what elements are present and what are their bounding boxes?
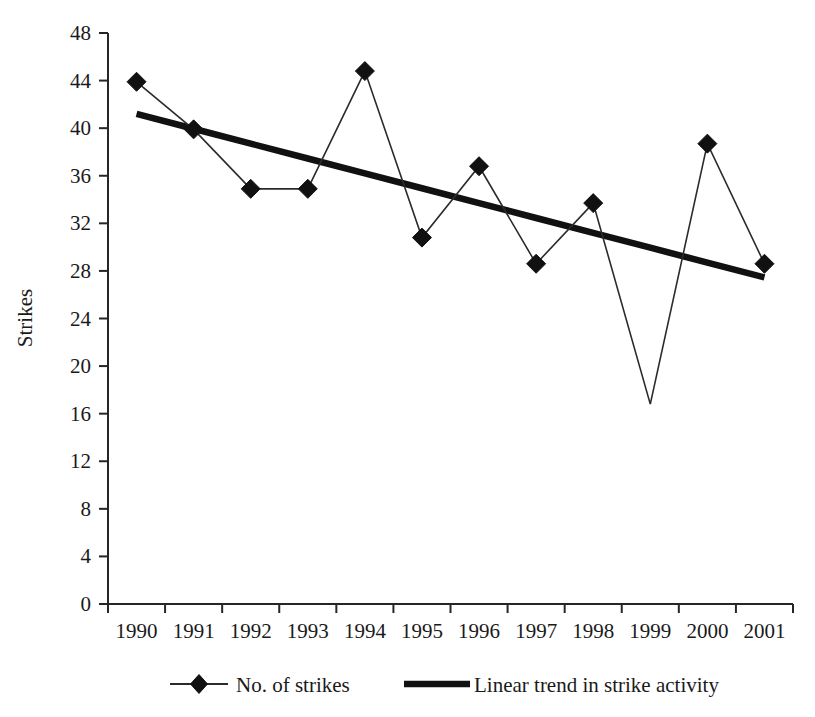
- x-tick-label: 2001: [743, 619, 785, 643]
- y-axis-title: Strikes: [13, 289, 37, 347]
- x-tick-label: 1995: [401, 619, 443, 643]
- y-axis-title-label: Strikes: [13, 289, 37, 347]
- y-tick-label: 20: [70, 354, 91, 378]
- legend-label-no-of-strikes: No. of strikes: [236, 673, 350, 697]
- x-tick-label: 1994: [344, 619, 387, 643]
- y-tick-label: 0: [81, 592, 92, 616]
- y-tick-label: 4: [81, 544, 92, 568]
- x-tick-label: 1999: [629, 619, 671, 643]
- x-tick-label: 1997: [515, 619, 557, 643]
- y-tick-label: 32: [70, 211, 91, 235]
- chart-background: [0, 0, 815, 717]
- y-tick-label: 16: [70, 402, 91, 426]
- y-tick-label: 40: [70, 116, 91, 140]
- y-tick-label: 36: [70, 164, 91, 188]
- y-tick-label: 24: [70, 307, 92, 331]
- strikes-line-chart: Strikes 04812162024283236404448 19901991…: [0, 0, 815, 717]
- y-tick-label: 12: [70, 449, 91, 473]
- x-tick-label: 1992: [230, 619, 272, 643]
- x-tick-label: 1993: [287, 619, 329, 643]
- x-tick-label: 1996: [458, 619, 500, 643]
- x-tick-label: 1990: [116, 619, 158, 643]
- y-tick-label: 48: [70, 21, 91, 45]
- legend-label-linear-trend: Linear trend in strike activity: [474, 673, 719, 697]
- y-tick-label: 28: [70, 259, 91, 283]
- y-tick-label: 8: [81, 497, 92, 521]
- chart-figure: Strikes 04812162024283236404448 19901991…: [0, 0, 815, 717]
- x-tick-label: 1998: [572, 619, 614, 643]
- x-tick-label: 1991: [173, 619, 215, 643]
- x-tick-label: 2000: [686, 619, 728, 643]
- y-tick-label: 44: [70, 69, 92, 93]
